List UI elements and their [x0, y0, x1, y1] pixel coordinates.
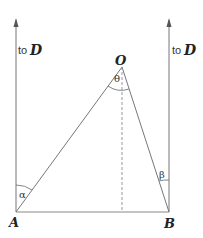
point-b-label: B [163, 216, 175, 231]
right-arrow-label-prefix: to [172, 44, 181, 56]
angle-beta-label: β [159, 169, 165, 180]
triangle-diagram: to D to D O A B α β θ [0, 0, 203, 238]
left-arrow-label-target: D [29, 42, 43, 58]
left-arrow-label-prefix: to [18, 44, 27, 56]
angle-alpha-label: α [19, 189, 26, 200]
right-arrow-label-target: D [183, 42, 197, 58]
left-arrowhead-icon [14, 18, 19, 27]
point-a-label: A [7, 215, 19, 230]
segment-bo [122, 67, 169, 212]
point-o-label: O [115, 53, 127, 68]
angle-theta-arc [108, 86, 129, 90]
right-arrowhead-icon [167, 18, 172, 27]
angle-beta-arc [159, 180, 169, 181]
angle-theta-label: θ [114, 73, 120, 84]
segment-ao [16, 67, 122, 212]
